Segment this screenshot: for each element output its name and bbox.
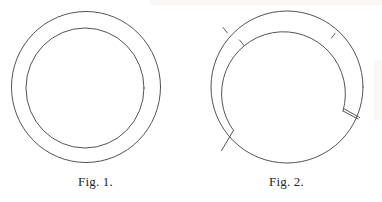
figure-1: Fig. 1. bbox=[0, 0, 191, 202]
fig2-tick-upper-left-outer bbox=[223, 28, 228, 34]
two-figure-plate: Fig. 1. bbox=[0, 0, 382, 202]
fig1-outer-circle bbox=[12, 12, 161, 163]
figure-2-drawing bbox=[191, 0, 382, 176]
fig2-tick-upper-left-inner bbox=[240, 40, 245, 46]
figure-1-caption: Fig. 1. bbox=[0, 174, 191, 190]
figure-2: Fig. 2. bbox=[191, 0, 382, 202]
fig2-inner-arc bbox=[221, 32, 345, 131]
fig1-inner-circle bbox=[26, 28, 144, 148]
fig2-outer-circle bbox=[211, 11, 363, 163]
figure-1-drawing bbox=[0, 0, 191, 176]
fig2-radial-bar-lower-left bbox=[222, 131, 234, 151]
figure-2-caption: Fig. 2. bbox=[191, 174, 382, 190]
fig2-tick-upper-right-inner bbox=[332, 34, 336, 39]
